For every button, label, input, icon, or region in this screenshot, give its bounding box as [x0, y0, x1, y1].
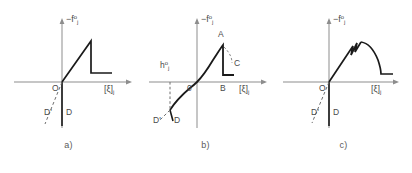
y-axis-arrow-b	[195, 18, 200, 24]
curve-a	[62, 41, 112, 82]
curve-b	[170, 45, 234, 110]
x-axis-label-c: [ξ]j	[371, 85, 381, 95]
x-axis-label-a: [ξ]j	[104, 85, 114, 95]
y-axis-arrow-a	[60, 18, 65, 24]
panel-c-caption: c)	[275, 140, 412, 150]
d-label-a: D	[66, 108, 72, 117]
d-prime-label-a: D'	[44, 108, 52, 117]
x-axis-arrow-a	[126, 80, 132, 85]
point-c-label-b: C	[234, 59, 240, 68]
d-prime-label-b: D'	[153, 116, 161, 125]
curve-c-rise	[329, 42, 361, 82]
leader-arc-c-b	[224, 47, 232, 63]
origin-label-b: 0	[187, 84, 192, 93]
y-axis-label-b: −foj	[201, 14, 213, 25]
curve-c-fall	[361, 42, 393, 74]
branch-d-b	[170, 110, 173, 121]
origin-label-c: O	[319, 84, 326, 93]
d-prime-label-c: D'	[311, 108, 319, 117]
panel-a-caption: a)	[0, 140, 137, 150]
h-label-b: hoj	[160, 60, 169, 71]
y-axis-arrow-c	[327, 18, 332, 24]
d-label-c: D	[333, 108, 339, 117]
y-axis-label-a: −foj	[66, 14, 78, 25]
point-b-label-b: B	[220, 84, 226, 93]
y-axis-label-c: −foj	[333, 14, 345, 25]
origin-label-a: O	[52, 84, 59, 93]
x-axis-arrow-c	[393, 80, 399, 85]
panel-b: −foj [ξ]j 0 A B C D D' hoj b)	[137, 0, 274, 173]
point-a-label-b: A	[218, 30, 224, 39]
panel-b-caption: b)	[137, 140, 274, 150]
branch-d-prime-b	[160, 110, 170, 120]
panel-c: −foj [ξ]j O D D' c)	[275, 0, 412, 173]
panel-a: −foj [ξ]j O D D' a)	[0, 0, 137, 173]
x-axis-label-b: [ξ]j	[239, 85, 249, 95]
x-axis-arrow-b	[261, 80, 267, 85]
d-label-b: D	[174, 116, 180, 125]
